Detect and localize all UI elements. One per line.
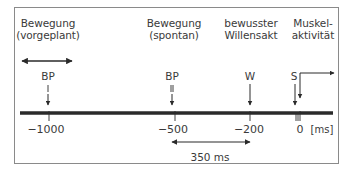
arrow-bp-ii-icon — [171, 85, 173, 105]
arrow-s-icon — [295, 73, 334, 105]
timeline-axis — [20, 111, 333, 121]
diagram-graphics — [0, 0, 352, 173]
